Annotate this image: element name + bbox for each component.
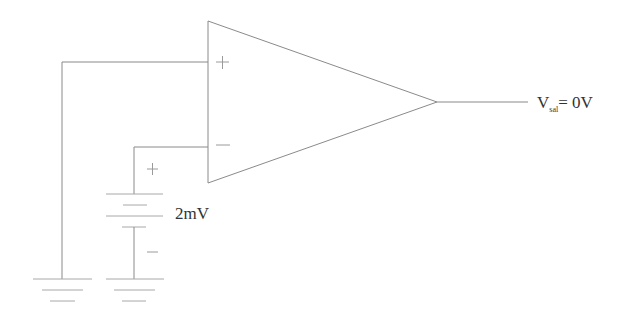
ground-icon <box>33 279 92 301</box>
output-label-value: = 0V <box>558 93 593 112</box>
battery-value-label: 2mV <box>175 204 210 223</box>
output-label-v: V <box>537 93 550 112</box>
inverting-input-wire <box>134 147 208 194</box>
battery <box>106 194 163 227</box>
ground-icon <box>106 279 164 301</box>
non-inverting-input-wire <box>62 62 208 279</box>
output-label: Vsal= 0V <box>537 93 594 114</box>
circuit-diagram: + − Vsal= 0V + − 2mV <box>0 0 630 324</box>
non-inverting-sign <box>216 56 229 69</box>
opamp-triangle <box>208 21 437 183</box>
battery-positive-sign <box>147 163 158 175</box>
